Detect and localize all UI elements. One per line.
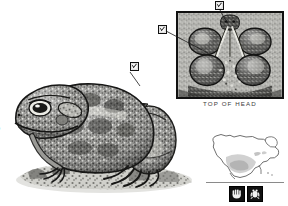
map-baseline-rule — [206, 182, 284, 183]
toad-silhouette-icon[interactable] — [247, 186, 263, 202]
inset-panel-top-of-head — [176, 11, 284, 99]
marker-icon-cranial-crest[interactable] — [215, 1, 224, 10]
marker-icon-toad-back[interactable] — [130, 62, 139, 71]
inset-caption: TOP OF HEAD — [176, 100, 284, 107]
illustration-plate: mp s — [0, 0, 288, 206]
marker-icon-parotoid-gland[interactable] — [158, 25, 167, 34]
icon-badge-group — [229, 186, 263, 202]
toad-illustration — [8, 48, 198, 196]
hand-size-icon[interactable] — [229, 186, 245, 202]
range-map — [206, 129, 284, 183]
